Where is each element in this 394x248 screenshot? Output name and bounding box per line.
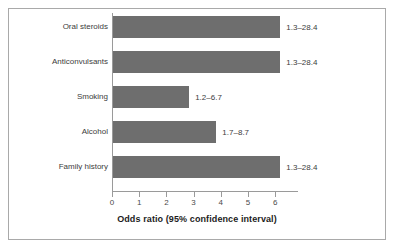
x-tick-label-0: 0	[102, 198, 122, 207]
bar-1	[113, 16, 280, 38]
category-label-text: Oral steroids	[63, 22, 108, 32]
x-axis-title: Odds ratio (95% confidence interval)	[8, 214, 386, 224]
x-tick-mark-1	[139, 192, 140, 197]
category-label-text: Alcohol	[82, 127, 108, 137]
bar-value-label-4: 1.7–8.7	[222, 121, 249, 143]
bar-value-label-1: 1.3–28.4	[286, 16, 317, 38]
category-label-text: Family history	[59, 162, 108, 172]
bar-value-label-2: 1.3–28.4	[286, 51, 317, 73]
bar-4	[113, 121, 216, 143]
category-label-2: Anticonvulsants	[6, 51, 108, 73]
x-tick-label-6: 6	[265, 198, 285, 207]
category-label-1: Oral steroids	[6, 16, 108, 38]
x-tick-mark-6	[275, 192, 276, 197]
bar-value-label-3: 1.2–6.7	[195, 86, 222, 108]
chart-figure: 0123456 Oral steroidsAnticonvulsantsSmok…	[0, 0, 394, 248]
category-label-5: Family history	[6, 156, 108, 178]
category-label-3: Smoking	[6, 86, 108, 108]
bar-value-label-5: 1.3–28.4	[286, 156, 317, 178]
x-tick-mark-2	[166, 192, 167, 197]
x-tick-mark-3	[194, 192, 195, 197]
x-tick-label-5: 5	[238, 198, 258, 207]
x-tick-mark-5	[248, 192, 249, 197]
category-label-text: Anticonvulsants	[52, 57, 108, 67]
bar-5	[113, 156, 280, 178]
bar-3	[113, 86, 189, 108]
x-tick-label-4: 4	[211, 198, 231, 207]
bar-2	[113, 51, 280, 73]
category-label-text: Smoking	[77, 92, 108, 102]
x-tick-label-3: 3	[184, 198, 204, 207]
category-label-4: Alcohol	[6, 121, 108, 143]
x-tick-mark-0	[112, 192, 113, 197]
x-tick-label-1: 1	[129, 198, 149, 207]
x-tick-mark-4	[221, 192, 222, 197]
x-tick-label-2: 2	[156, 198, 176, 207]
